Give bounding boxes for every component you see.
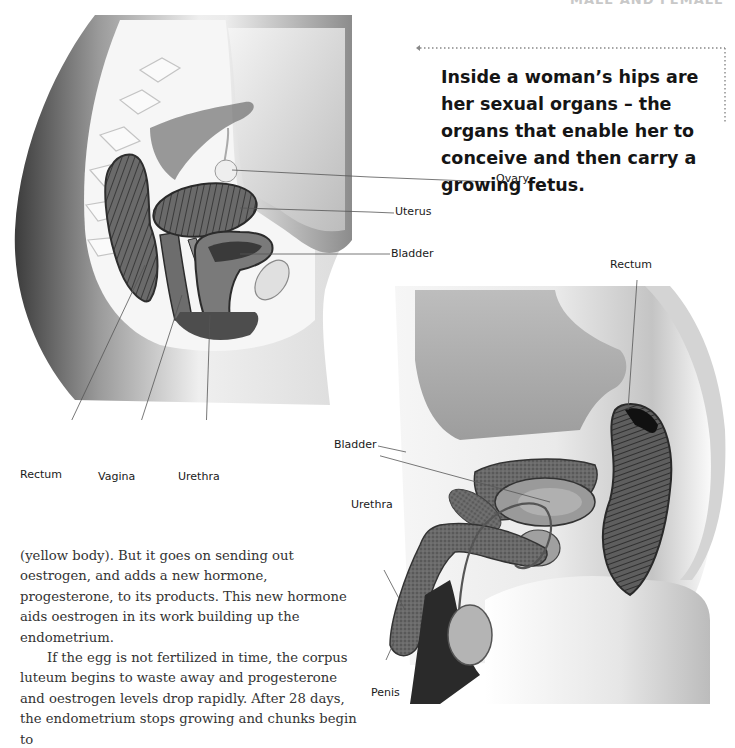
label-urethra-female: Urethra	[178, 470, 220, 483]
label-penis: Penis	[371, 686, 400, 699]
label-rectum-female: Rectum	[20, 468, 62, 481]
label-bladder-female: Bladder	[391, 247, 434, 260]
body-paragraph-1: (yellow body). But it goes on sending ou…	[20, 546, 365, 648]
label-bladder-male: Bladder	[334, 438, 377, 451]
page-header: MALE AND FEMALE	[570, 0, 724, 7]
callout-text: Inside a woman’s hips are her sexual org…	[441, 64, 731, 199]
label-rectum-male: Rectum	[610, 258, 652, 271]
male-pelvis-diagram	[380, 280, 735, 704]
male-bladder-leader-extension	[378, 440, 408, 460]
label-urethra-male: Urethra	[351, 498, 393, 511]
body-text: (yellow body). But it goes on sending ou…	[20, 546, 365, 748]
label-vagina: Vagina	[98, 470, 135, 483]
body-paragraph-2: If the egg is not fertilized in time, th…	[20, 648, 365, 748]
